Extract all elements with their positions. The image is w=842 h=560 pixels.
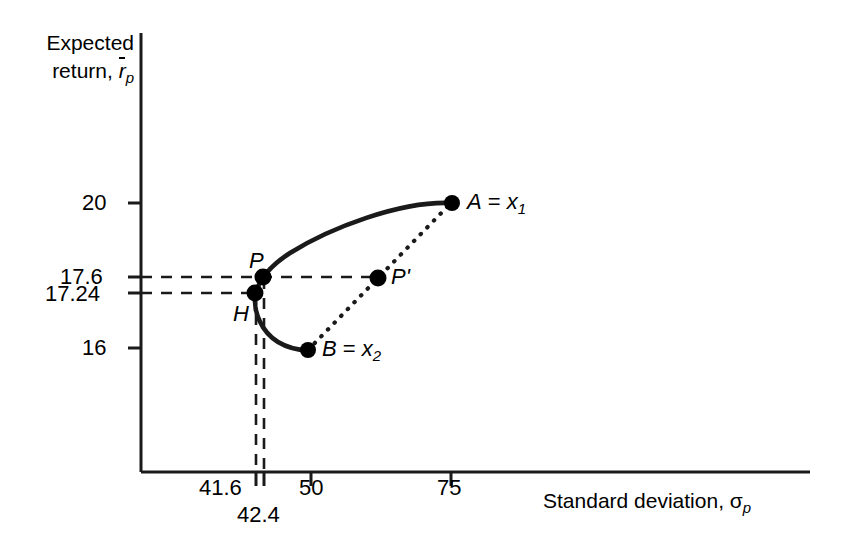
x-axis-title-subscript: p xyxy=(743,499,751,516)
y-axis-title: Expected return, rp xyxy=(12,30,134,88)
y-axis-title-subscript: p xyxy=(126,69,134,86)
axis-lines xyxy=(141,33,810,472)
x-tick-label-41-6: 41.6 xyxy=(199,477,242,499)
point-label-H: H xyxy=(233,303,249,325)
y-tick-label-17-24: 17.24 xyxy=(45,283,100,305)
point-label-P-prime: P' xyxy=(391,266,410,288)
r-bar-symbol: r xyxy=(119,57,126,85)
point-label-B: B = x2 xyxy=(322,338,381,363)
x-axis-ticks xyxy=(256,472,451,486)
point-label-A-equals: = xyxy=(482,189,507,214)
point-label-B-equals: = xyxy=(337,336,362,361)
point-label-A-subscript: 1 xyxy=(518,200,526,217)
y-axis-ticks xyxy=(128,203,141,348)
point-B[interactable] xyxy=(300,342,316,358)
y-tick-label-16: 16 xyxy=(82,337,106,359)
y-tick-label-20: 20 xyxy=(82,192,106,214)
point-P-prime[interactable] xyxy=(370,270,387,287)
y-axis-title-line2: return, rp xyxy=(12,57,134,88)
r-glyph: r xyxy=(119,57,126,85)
point-label-B-letter: B xyxy=(322,336,337,361)
y-axis-title-line1: Expected xyxy=(12,30,134,57)
y-axis-title-prefix: return, xyxy=(52,59,119,82)
x-axis-title: Standard deviation, σp xyxy=(543,490,751,515)
point-label-A-letter: A xyxy=(467,189,482,214)
point-H[interactable] xyxy=(247,285,264,302)
x-axis-title-prefix: Standard deviation, xyxy=(543,489,730,512)
x-tick-label-50: 50 xyxy=(299,477,323,499)
point-label-P: P xyxy=(249,250,264,272)
data-points xyxy=(247,195,461,358)
point-label-A: A = x1 xyxy=(467,191,526,216)
macron-bar xyxy=(119,57,125,59)
point-label-B-var: x xyxy=(362,336,373,361)
x-tick-label-42-4: 42.4 xyxy=(237,504,280,526)
figure-canvas: Expected return, rp Standard deviation, … xyxy=(0,0,842,560)
guide-lines xyxy=(141,277,378,472)
point-label-B-subscript: 2 xyxy=(373,347,381,364)
sigma-symbol: σ xyxy=(730,489,743,512)
point-A[interactable] xyxy=(444,195,460,211)
point-label-A-var: x xyxy=(507,189,518,214)
x-tick-label-75: 75 xyxy=(437,477,461,499)
